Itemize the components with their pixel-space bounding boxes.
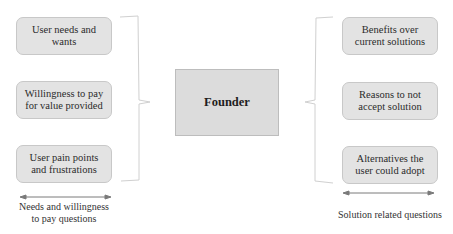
left-group-caption: Needs and willingness to pay questions xyxy=(14,201,114,225)
right-brace xyxy=(305,17,333,183)
right-double-arrow xyxy=(343,191,434,195)
left-item-label: User pain points and frustrations xyxy=(23,152,105,177)
left-item-willingness-to-pay: Willingness to pay for value provided xyxy=(16,81,112,119)
left-item-user-needs: User needs and wants xyxy=(16,17,112,55)
right-group-caption: Solution related questions xyxy=(330,209,450,221)
left-brace xyxy=(120,16,150,181)
right-item-label: Alternatives the user could adopt xyxy=(349,153,431,178)
right-item-label: Reasons to not accept solution xyxy=(349,89,431,114)
left-double-arrow xyxy=(20,195,111,199)
right-item-alternatives: Alternatives the user could adopt xyxy=(342,146,438,184)
left-item-label: Willingness to pay for value provided xyxy=(23,88,105,113)
right-item-reasons-not-accept: Reasons to not accept solution xyxy=(342,82,438,120)
right-item-benefits: Benefits over current solutions xyxy=(342,17,438,55)
left-item-pain-points: User pain points and frustrations xyxy=(16,145,112,183)
founder-label: Founder xyxy=(204,95,250,110)
founder-box: Founder xyxy=(175,69,279,136)
left-item-label: User needs and wants xyxy=(23,24,105,49)
right-item-label: Benefits over current solutions xyxy=(349,24,431,49)
